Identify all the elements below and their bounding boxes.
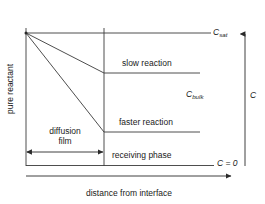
c-sat-label: Csat: [213, 27, 227, 38]
faster-reaction-gradient: [26, 33, 104, 132]
slow-reaction-label: slow reaction: [122, 58, 172, 68]
c-bulk-subscript: bulk: [192, 93, 203, 100]
c-bulk-label: Cbulk: [186, 89, 204, 100]
y-axis-label: pure reactant: [5, 51, 15, 127]
x-axis-label: distance from interface: [26, 188, 232, 198]
right-axis-label: C: [250, 90, 256, 100]
diffusion-film-label: diffusion film: [36, 126, 94, 146]
c-sat-subscript: sat: [219, 31, 227, 38]
diffusion-film-label-line1: diffusion: [49, 126, 81, 136]
figure-canvas: pure reactant slow reaction faster react…: [0, 0, 265, 204]
interface-apex-point: [25, 32, 28, 35]
slow-reaction-gradient: [26, 33, 104, 73]
faster-reaction-label: faster reaction: [119, 117, 173, 127]
receiving-phase-label: receiving phase: [112, 150, 172, 160]
diffusion-film-label-line2: film: [58, 136, 71, 146]
c-zero-label: C = 0: [217, 158, 238, 168]
